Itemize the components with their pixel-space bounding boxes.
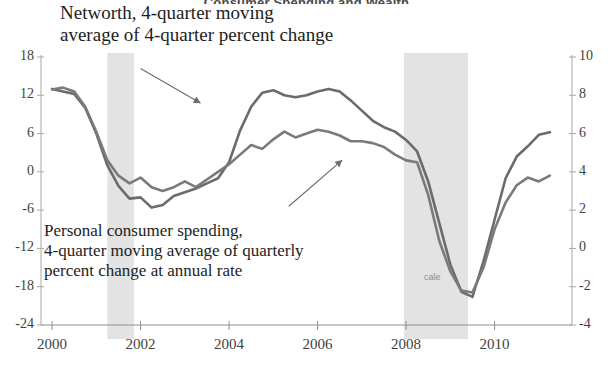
recession-band — [404, 53, 468, 339]
y-axis-left-tick-label: 18 — [2, 48, 34, 64]
annotation-arrows — [141, 68, 342, 206]
annotation-spending-line1: Personal consumer spending, — [44, 221, 243, 240]
y-axis-right-tick-label: -4 — [579, 316, 613, 332]
annotation-networth: Networth, 4-quarter movingaverage of 4-q… — [60, 2, 333, 47]
y-axis-right-tick-label: 4 — [579, 163, 613, 179]
x-axis-tick-label: 2006 — [291, 336, 345, 353]
x-axis-tick-label: 2000 — [25, 336, 79, 353]
y-axis-right-tick-label: 0 — [579, 239, 613, 255]
x-axis-tick-label: 2002 — [114, 336, 168, 353]
y-axis-right-tick-label: 2 — [579, 201, 613, 217]
recession-band — [107, 53, 134, 339]
x-axis-tick-label: 2010 — [468, 336, 522, 353]
y-axis-right-tick-label: 10 — [579, 48, 613, 64]
annotation-spending-line3: percent change at annual rate — [44, 261, 242, 280]
annotation-networth-line1: Networth, 4-quarter moving — [60, 2, 274, 23]
annotation-arrow-networth-label — [141, 68, 201, 102]
y-axis-left-tick-label: 0 — [2, 163, 34, 179]
y-axis-left-tick-label: -18 — [2, 278, 34, 294]
y-axis-right-tick-label: 6 — [579, 125, 613, 141]
y-axis-left-tick-label: -12 — [2, 239, 34, 255]
y-axis-left-tick-label: -6 — [2, 201, 34, 217]
y-axis-left-tick-label: 6 — [2, 125, 34, 141]
y-axis-right-tick-label: -2 — [579, 278, 613, 294]
chart-plot-area — [0, 0, 613, 379]
annotation-arrow-spending-label — [289, 160, 342, 206]
y-axis-left-tick-label: -24 — [2, 316, 34, 332]
annotation-spending-line2: 4-quarter moving average of quarterly — [44, 241, 304, 260]
x-axis-tick-label: 2004 — [202, 336, 256, 353]
scale-note-text: cale — [424, 272, 441, 282]
chart-figure: Consumer Spending and Wealth 181260-6-12… — [0, 0, 613, 379]
annotation-spending: Personal consumer spending,4-quarter mov… — [44, 221, 304, 281]
y-axis-left-tick-label: 12 — [2, 86, 34, 102]
x-axis-tick-label: 2008 — [379, 336, 433, 353]
annotation-networth-line2: average of 4-quarter percent change — [60, 24, 333, 45]
y-axis-right-tick-label: 8 — [579, 86, 613, 102]
